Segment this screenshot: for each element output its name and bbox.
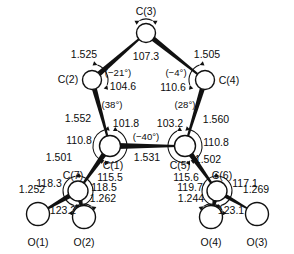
bond-length-label: 1.525 bbox=[71, 48, 97, 60]
atom-label-c2: C(2) bbox=[58, 73, 78, 85]
structure-diagram-canvas: C(3)C(2)C(4)C(1)C(5)C(7)C(6)O(1)O(2)O(4)… bbox=[0, 0, 294, 254]
arc-arrowhead bbox=[93, 61, 98, 65]
atom-label-o1: O(1) bbox=[28, 236, 49, 248]
arc-arrowhead bbox=[189, 85, 193, 90]
atom-o3 bbox=[246, 203, 269, 226]
bond-length-label: 1.552 bbox=[65, 112, 91, 124]
bond-length-label: 1.501 bbox=[46, 151, 72, 163]
bond-angle-label: 104.6 bbox=[110, 80, 136, 92]
bond-angle-label: 103.2 bbox=[157, 117, 183, 129]
atom-label-c6: C(6) bbox=[212, 169, 232, 181]
bond-C2-C1 bbox=[91, 86, 109, 139]
bond-angle-label: 119.7 bbox=[177, 181, 203, 193]
arc-arrowhead bbox=[200, 61, 205, 65]
atom-label-c7: C(7) bbox=[63, 169, 83, 181]
atom-c7 bbox=[68, 181, 88, 201]
bond-length-label: 1.502 bbox=[195, 153, 221, 165]
arc-arrowhead bbox=[153, 21, 158, 25]
bond-length-label: 1.531 bbox=[134, 151, 160, 163]
arc-arrowhead bbox=[134, 21, 139, 25]
bond-length-label: 1.244 bbox=[178, 192, 204, 204]
bond-length-label: 1.262 bbox=[90, 192, 116, 204]
atom-label-c4: C(4) bbox=[219, 74, 239, 86]
bond-angle-label: 117.1 bbox=[232, 177, 258, 189]
bond-angle-label: 110.6 bbox=[160, 81, 186, 93]
torsion-angle-label: (−21°) bbox=[105, 67, 132, 78]
torsion-angle-label: (−40°) bbox=[133, 131, 160, 142]
atom-label-c5: C(5) bbox=[170, 159, 190, 171]
atom-label-o4: O(4) bbox=[201, 236, 222, 248]
arc-arrowhead bbox=[104, 85, 108, 90]
bond-angle-label: 110.8 bbox=[203, 136, 229, 148]
bond-angle-label: 107.3 bbox=[133, 50, 159, 62]
angle-arc bbox=[139, 19, 152, 21]
bond-angle-label: 118.3 bbox=[36, 177, 62, 189]
atom-c5 bbox=[175, 136, 196, 157]
torsion-angle-label: (38°) bbox=[102, 99, 123, 110]
atom-c1 bbox=[100, 136, 121, 157]
bond-length-label: 1.560 bbox=[203, 113, 229, 125]
bond-angle-label: 110.8 bbox=[66, 134, 92, 146]
bond-length-label: 1.505 bbox=[194, 48, 220, 60]
atom-c3 bbox=[137, 24, 156, 43]
bond-angle-label: 123.1 bbox=[218, 204, 244, 216]
torsion-angle-label: (28°) bbox=[175, 99, 196, 110]
atom-label-c1: C(1) bbox=[103, 159, 123, 171]
bond-angle-label: 123.2 bbox=[50, 204, 76, 216]
atom-label-o3: O(3) bbox=[247, 236, 268, 248]
atom-label-o2: O(2) bbox=[74, 236, 95, 248]
torsion-angle-label: (−4°) bbox=[165, 67, 186, 78]
bond-angle-label: 118.5 bbox=[91, 181, 117, 193]
atom-c2 bbox=[83, 71, 102, 90]
atom-c6 bbox=[207, 181, 227, 201]
atom-c4 bbox=[196, 71, 215, 90]
bond-angle-label: 101.8 bbox=[113, 117, 139, 129]
atom-o1 bbox=[27, 203, 50, 226]
molecular-structure-figure: C(3)C(2)C(4)C(1)C(5)C(7)C(6)O(1)O(2)O(4)… bbox=[0, 0, 294, 254]
atom-label-c3: C(3) bbox=[136, 5, 156, 17]
